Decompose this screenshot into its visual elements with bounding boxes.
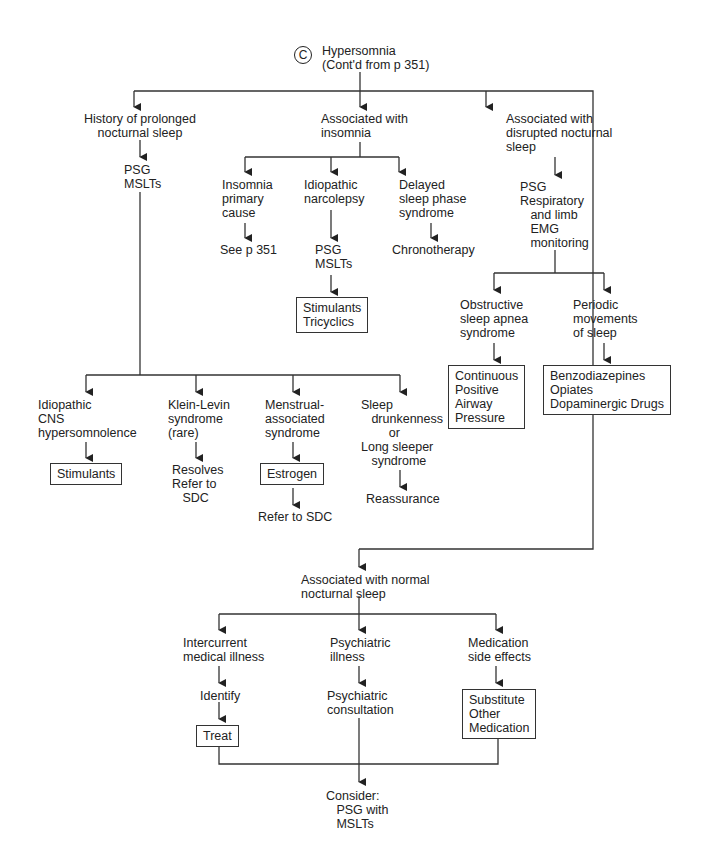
node-prolonged-test: PSG MSLTs <box>124 163 161 191</box>
node-disrupted-sleep: Associated with disrupted nocturnal slee… <box>506 112 612 154</box>
node-menstrual: Menstrual- associated syndrome <box>265 398 325 440</box>
node-identify: Identify <box>200 689 240 703</box>
node-sleep-drunkenness: Sleep drunkenness or Long sleeper syndro… <box>361 398 443 468</box>
node-reassurance: Reassurance <box>366 492 440 506</box>
box-treat: Treat <box>196 725 239 747</box>
node-disrupted-test: PSG Respiratory and limb EMG monitoring <box>520 180 589 250</box>
root-subtitle: (Cont'd from p 351) <box>322 58 429 72</box>
node-idiopathic-narcolepsy: Idiopathic narcolepsy <box>304 178 364 206</box>
node-delayed-sleep-phase: Delayed sleep phase syndrome <box>399 178 466 220</box>
node-insomnia-primary: Insomnia primary cause <box>222 178 273 220</box>
node-psychiatric-illness: Psychiatric illness <box>330 636 390 664</box>
node-insomnia: Associated with insomnia <box>321 112 408 140</box>
node-see-p351: See p 351 <box>220 243 277 257</box>
node-consider-psg: Consider: PSG with MSLTs <box>326 789 389 831</box>
node-medication-side-effects: Medication side effects <box>468 636 531 664</box>
box-stimulants: Stimulants <box>50 463 122 485</box>
node-klein-levin-outcome: Resolves Refer to SDC <box>172 463 223 505</box>
node-refer-sdc: Refer to SDC <box>258 510 332 524</box>
box-benzodiazepines: Benzodiazepines Opiates Dopaminergic Dru… <box>543 365 671 415</box>
root-title: Hypersomnia <box>322 44 396 58</box>
section-marker-c: C <box>294 46 312 64</box>
node-normal-sleep: Associated with normal nocturnal sleep <box>301 573 430 601</box>
node-prolonged-sleep: History of prolonged nocturnal sleep <box>78 112 202 140</box>
node-chronotherapy: Chronotherapy <box>392 243 475 257</box>
box-cpap: Continuous Positive Airway Pressure <box>448 365 525 429</box>
node-intercurrent-illness: Intercurrent medical illness <box>183 636 264 664</box>
node-periodic-movements: Periodic movements of sleep <box>573 298 638 340</box>
box-estrogen: Estrogen <box>260 463 324 485</box>
node-obstructive-apnea: Obstructive sleep apnea syndrome <box>460 298 528 340</box>
node-narcolepsy-test: PSG MSLTs <box>315 243 352 271</box>
node-psychiatric-consultation: Psychiatric consultation <box>327 689 394 717</box>
box-substitute-medication: Substitute Other Medication <box>462 689 536 739</box>
box-stimulants-tricyclics: Stimulants Tricyclics <box>296 297 368 333</box>
flowchart-canvas: C Hypersomnia (Cont'd from p 351) Histor… <box>0 0 716 862</box>
node-klein-levin: Klein-Levin syndrome (rare) <box>168 398 230 440</box>
node-idiopathic-cns: Idiopathic CNS hypersomnolence <box>38 398 137 440</box>
